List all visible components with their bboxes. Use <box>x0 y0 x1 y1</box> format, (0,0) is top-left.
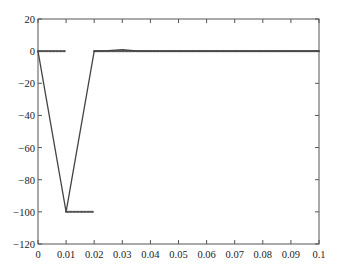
y-tick-label: −120 <box>13 239 35 250</box>
x-tick-label: 0.1 <box>312 249 325 260</box>
y-tick-label: −40 <box>19 110 35 121</box>
x-axis-tick-labels: 00.010.020.030.040.050.060.070.080.090.1 <box>35 249 325 260</box>
y-axis-tick-labels: 200−20−40−60−80−100−120 <box>13 14 35 250</box>
y-tick-label: 0 <box>30 46 35 57</box>
line-chart: 00.010.020.030.040.050.060.070.080.090.1… <box>0 0 338 269</box>
y-tick-label: −20 <box>19 78 35 89</box>
x-tick-label: 0.07 <box>226 249 244 260</box>
x-tick-label: 0 <box>35 249 40 260</box>
sample-markers <box>37 50 320 213</box>
x-tick-label: 0.06 <box>197 249 215 260</box>
x-tick-label: 0.09 <box>282 249 300 260</box>
x-tick-label: 0.01 <box>57 249 75 260</box>
x-tick-label: 0.08 <box>254 249 272 260</box>
y-tick-label: 20 <box>25 14 36 25</box>
x-tick-label: 0.03 <box>113 249 131 260</box>
x-tick-label: 0.04 <box>141 249 160 260</box>
data-line <box>38 50 319 212</box>
y-tick-label: −60 <box>19 143 35 154</box>
y-tick-label: −100 <box>13 207 35 218</box>
x-tick-label: 0.05 <box>169 249 187 260</box>
y-tick-label: −80 <box>19 175 35 186</box>
x-tick-label: 0.02 <box>85 249 103 260</box>
